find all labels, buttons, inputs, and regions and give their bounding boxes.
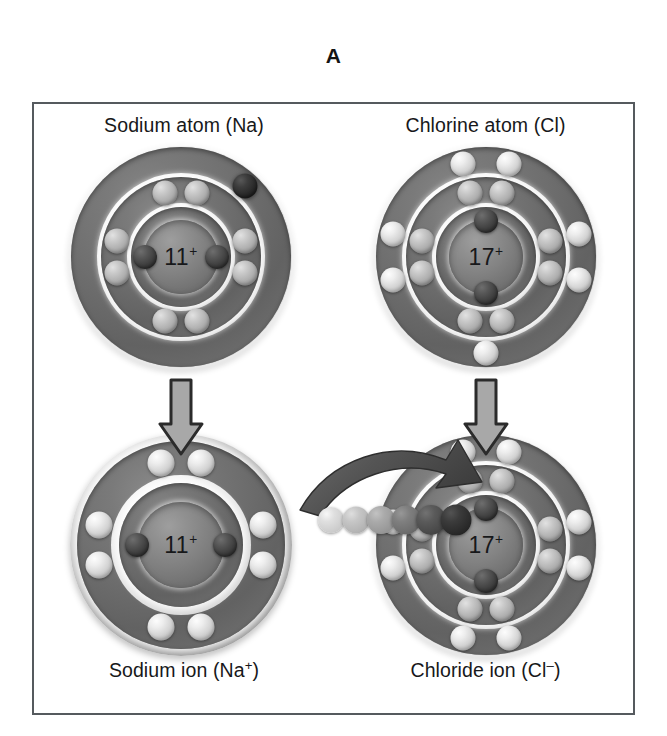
trail-electron-2 — [343, 507, 370, 534]
nucleus-label: 17+ — [468, 244, 503, 271]
atom-sodium-atom: 11+ — [70, 146, 292, 368]
electron-shell3-5 — [567, 509, 592, 534]
electron-shell2-1 — [458, 180, 483, 205]
atom-chlorine-atom: 17+ — [375, 146, 597, 368]
diagram-panel: Sodium atom (Na) Chlorine atom (Cl) Sodi… — [32, 102, 635, 715]
electron-shell2-4 — [409, 260, 434, 285]
caption-sodium-ion-charge: + — [245, 658, 253, 673]
electron-shell3-7 — [450, 626, 475, 651]
electron-shell2-6 — [233, 260, 258, 285]
electron-shell2-8 — [489, 597, 514, 622]
electron-trail — [317, 502, 477, 538]
figure-letter: A — [0, 44, 667, 68]
electron-shell3-4 — [380, 268, 405, 293]
electron-shell3-2 — [497, 151, 522, 176]
down-arrow-sodium — [158, 378, 204, 456]
caption-chloride-ion-charge: – — [546, 658, 553, 673]
electron-shell1-1 — [474, 209, 498, 233]
caption-sodium-ion-close: ) — [253, 659, 260, 681]
electron-shell2-4 — [86, 552, 113, 579]
electron-shell3-1 — [450, 151, 475, 176]
electron-shell3-8 — [497, 626, 522, 651]
electron-shell2-2 — [184, 180, 209, 205]
electron-shell3-7 — [474, 341, 499, 366]
caption-chlorine-atom: Chlorine atom (Cl) — [334, 114, 637, 137]
electron-shell2-5 — [538, 229, 563, 254]
electron-shell2-7 — [458, 597, 483, 622]
caption-sodium-ion-text: Sodium ion (Na — [109, 659, 245, 681]
nucleus: 11+ — [138, 502, 224, 588]
electron-shell2-2 — [489, 180, 514, 205]
electron-shell2-8 — [489, 309, 514, 334]
electron-shell2-1 — [153, 180, 178, 205]
electron-shell2-7 — [458, 309, 483, 334]
electron-shell3-6 — [567, 556, 592, 581]
electron-shell3-3 — [380, 221, 405, 246]
electron-shell1-2 — [474, 281, 498, 305]
electron-shell2-8 — [188, 613, 215, 640]
electron-shell2-3 — [104, 229, 129, 254]
electron-shell2-6 — [538, 260, 563, 285]
electron-shell2-3 — [409, 229, 434, 254]
electron-shell1-2 — [474, 569, 498, 593]
electron-shell1-2 — [205, 245, 229, 269]
electron-shell2-6 — [538, 548, 563, 573]
caption-sodium-atom: Sodium atom (Na) — [34, 114, 334, 137]
trail-electron-1 — [318, 507, 344, 533]
nucleus-label: 11+ — [164, 532, 197, 559]
electron-shell3-6 — [567, 268, 592, 293]
caption-chloride-ion-close: ) — [554, 659, 561, 681]
caption-sodium-ion: Sodium ion (Na+) — [34, 659, 334, 682]
electron-shell2-6 — [249, 552, 276, 579]
electron-shell2-5 — [233, 229, 258, 254]
electron-shell3-4 — [380, 556, 405, 581]
caption-chloride-ion: Chloride ion (Cl–) — [334, 659, 637, 682]
trail-electron-6 — [441, 505, 472, 536]
electron-shell2-3 — [86, 511, 113, 538]
electron-shell2-5 — [249, 511, 276, 538]
electron-shell1-1 — [133, 245, 157, 269]
electron-shell2-4 — [104, 260, 129, 285]
caption-chloride-ion-text: Chloride ion (Cl — [410, 659, 546, 681]
electron-shell2-7 — [147, 613, 174, 640]
atom-sodium-ion: 11+ — [70, 434, 292, 656]
electron-shell3-5 — [567, 221, 592, 246]
electron-shell2-8 — [184, 309, 209, 334]
electron-shell3-1 — [233, 173, 258, 198]
electron-shell2-5 — [538, 517, 563, 542]
electron-shell2-7 — [153, 309, 178, 334]
nucleus-label: 11+ — [164, 244, 197, 271]
electron-shell1-1 — [125, 533, 149, 557]
electron-shell1-2 — [213, 533, 237, 557]
electron-shell2-4 — [409, 548, 434, 573]
